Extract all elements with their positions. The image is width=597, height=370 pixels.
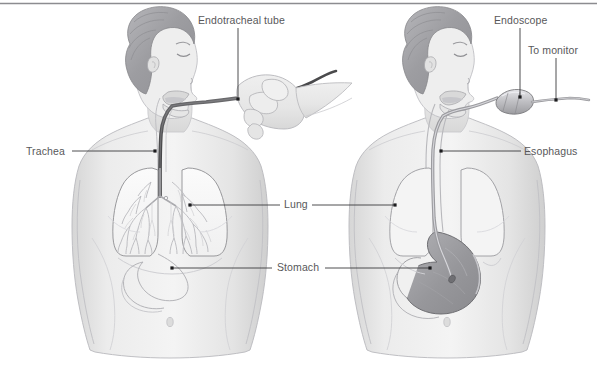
- label-stomach: Stomach: [277, 261, 319, 273]
- endoscope-handpiece: [496, 89, 534, 114]
- right-panel-figure: [349, 7, 545, 358]
- navel-right: [444, 317, 450, 326]
- leader-stomach-right-dot: [428, 266, 431, 269]
- leader-endoscope-dot: [518, 95, 521, 98]
- forearm: [296, 83, 352, 118]
- illustration-canvas: [0, 0, 597, 370]
- left-panel-figure: [72, 7, 352, 358]
- endoscope-device: [496, 89, 589, 114]
- leader-esophagus-dot: [439, 149, 442, 152]
- label-endoscope: Endoscope: [494, 14, 547, 26]
- leader-endotracheal-tube-dot: [236, 97, 239, 100]
- leader-stomach-left-dot: [170, 266, 173, 269]
- medical-illustration: Endotracheal tubeTracheaLungStomachEndos…: [0, 0, 597, 370]
- label-esophagus: Esophagus: [524, 145, 577, 157]
- leader-to-monitor-dot: [554, 98, 557, 101]
- bronchus-opening: [164, 196, 167, 199]
- leader-trachea-dot: [153, 149, 156, 152]
- leader-lung-right-dot: [393, 203, 396, 206]
- navel-left: [167, 317, 173, 326]
- label-trachea: Trachea: [26, 145, 65, 157]
- clinician-hand: [237, 75, 352, 139]
- leader-lung-left-dot: [188, 203, 191, 206]
- label-lung: Lung: [284, 198, 308, 210]
- ring-finger: [248, 124, 263, 139]
- label-endotracheal-tube: Endotracheal tube: [198, 14, 285, 26]
- label-to-monitor: To monitor: [528, 44, 578, 56]
